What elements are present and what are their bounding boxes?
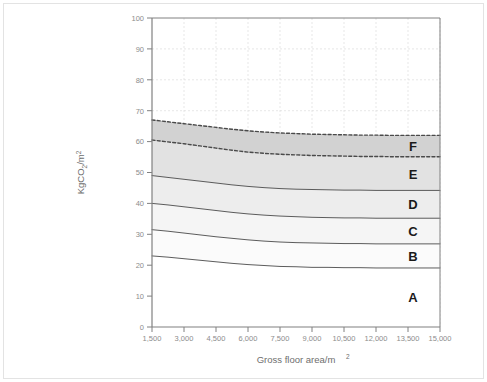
- x-tick-label: 13,500: [397, 334, 420, 343]
- y-axis-ticks: 0102030405060708090100: [131, 14, 152, 332]
- x-tick-label: 3,000: [175, 334, 194, 343]
- chart-figure: 01020304050607080901001,5003,0004,5006,0…: [0, 0, 487, 382]
- x-tick-label: 12,000: [365, 334, 388, 343]
- x-tick-label: 6,000: [239, 334, 258, 343]
- y-tick-label: 50: [136, 168, 144, 177]
- y-tick-label: 20: [136, 261, 144, 270]
- band-fills: [152, 120, 440, 327]
- band-label-E: E: [409, 167, 418, 182]
- y-tick-label: 10: [136, 292, 144, 301]
- y-tick-label: 30: [136, 230, 144, 239]
- x-axis-ticks: 1,5003,0004,5006,0007,5009,00010,50012,0…: [143, 327, 452, 343]
- y-tick-label: 90: [136, 45, 144, 54]
- x-axis-title: Gross floor area/m: [257, 354, 336, 365]
- x-tick-label: 15,000: [429, 334, 452, 343]
- y-tick-label: 60: [136, 137, 144, 146]
- y-tick-label: 0: [140, 323, 144, 332]
- y-tick-label: 70: [136, 107, 144, 116]
- y-axis-title-superscript: 2: [75, 150, 82, 154]
- x-tick-label: 4,500: [207, 334, 226, 343]
- x-tick-label: 10,500: [333, 334, 356, 343]
- band-label-C: C: [408, 224, 418, 239]
- y-axis-title-tail: /m: [75, 154, 86, 165]
- y-tick-label: 100: [131, 14, 144, 23]
- x-tick-label: 7,500: [271, 334, 290, 343]
- band-label-F: F: [409, 139, 417, 154]
- y-axis-title: KgCO2/m2: [75, 150, 88, 194]
- energy-band-chart: 01020304050607080901001,5003,0004,5006,0…: [0, 0, 487, 382]
- band-label-B: B: [408, 249, 417, 264]
- y-axis-title-group: KgCO2/m2: [75, 150, 88, 194]
- x-axis-title-superscript: 2: [346, 353, 350, 360]
- y-axis-title-main: KgCO: [75, 168, 86, 194]
- x-tick-label: 9,000: [303, 334, 322, 343]
- band-label-D: D: [408, 197, 417, 212]
- y-tick-label: 40: [136, 199, 144, 208]
- y-tick-label: 80: [136, 76, 144, 85]
- x-tick-label: 1,500: [143, 334, 162, 343]
- band-label-A: A: [408, 290, 418, 305]
